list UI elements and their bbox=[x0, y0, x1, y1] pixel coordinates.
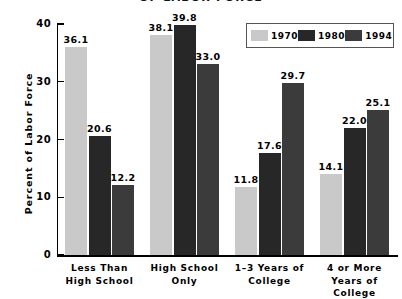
x-axis-label-line: Years of bbox=[306, 275, 402, 288]
bar-value-label: 36.1 bbox=[57, 34, 95, 45]
bar bbox=[150, 35, 172, 255]
y-tick-mark bbox=[57, 197, 64, 198]
x-axis-label-line: High School bbox=[51, 275, 148, 288]
x-axis-label: 4 or MoreYears ofCollege bbox=[306, 262, 402, 299]
chart-title: OF LABOR FORCE bbox=[0, 0, 402, 4]
bar bbox=[89, 136, 111, 255]
y-tick-label: 0 bbox=[17, 249, 51, 260]
y-tick-label: 30 bbox=[17, 76, 51, 87]
bar bbox=[65, 47, 87, 255]
x-axis-label-line: 4 or More bbox=[306, 262, 402, 275]
y-tick-mark bbox=[57, 81, 64, 82]
y-tick-mark bbox=[57, 139, 64, 140]
y-tick-label: 20 bbox=[17, 134, 51, 145]
bar-value-label: 25.1 bbox=[359, 97, 397, 108]
bar bbox=[367, 110, 389, 255]
legend: 197019801994 bbox=[246, 23, 394, 48]
x-axis-label-line: College bbox=[306, 287, 402, 299]
bar bbox=[112, 185, 134, 255]
y-tick-label: 10 bbox=[17, 191, 51, 202]
x-axis-line bbox=[57, 255, 398, 257]
legend-swatch-icon bbox=[298, 30, 315, 41]
x-axis-label: 1–3 Years ofCollege bbox=[221, 262, 318, 287]
x-axis-label-line: Less Than bbox=[51, 262, 148, 275]
x-axis-label-line: Only bbox=[136, 275, 233, 288]
legend-label: 1980 bbox=[318, 31, 345, 41]
x-axis-label: High SchoolOnly bbox=[136, 262, 233, 287]
bar bbox=[197, 64, 219, 255]
bar bbox=[259, 153, 281, 255]
legend-swatch-icon bbox=[251, 30, 268, 41]
x-axis-label-line: High School bbox=[136, 262, 233, 275]
bar-value-label: 20.6 bbox=[81, 123, 119, 134]
x-axis-label-line: College bbox=[221, 275, 318, 288]
y-tick-mark bbox=[57, 254, 64, 255]
bar-value-label: 33.0 bbox=[189, 51, 227, 62]
bar bbox=[320, 174, 342, 255]
legend-entry: 1980 bbox=[298, 30, 345, 41]
x-axis-label: Less ThanHigh School bbox=[51, 262, 148, 287]
bar-chart: OF LABOR FORCE Percent of Labor Force 01… bbox=[0, 0, 402, 299]
y-tick-mark bbox=[57, 23, 64, 24]
bar-value-label: 39.8 bbox=[166, 12, 204, 23]
bar-value-label: 12.2 bbox=[104, 172, 142, 183]
legend-entry: 1970 bbox=[251, 30, 298, 41]
x-axis-label-line: 1–3 Years of bbox=[221, 262, 318, 275]
bar bbox=[344, 128, 366, 255]
legend-label: 1994 bbox=[365, 31, 392, 41]
bar bbox=[235, 187, 257, 255]
legend-label: 1970 bbox=[271, 31, 298, 41]
bar-value-label: 29.7 bbox=[274, 70, 312, 81]
legend-entry: 1994 bbox=[345, 30, 392, 41]
legend-swatch-icon bbox=[345, 30, 362, 41]
y-tick-label: 40 bbox=[17, 18, 51, 29]
bar bbox=[282, 83, 304, 255]
